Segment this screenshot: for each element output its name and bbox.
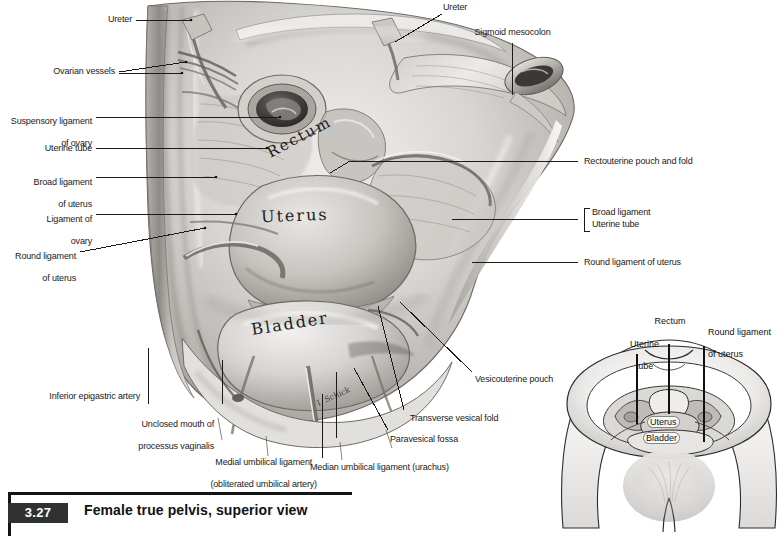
inset-label-round-ligament-of-uterus: Round ligament of uterus [693,316,784,371]
label-line-1: Round ligament [15,251,76,261]
label-line-2: tube [636,361,654,371]
label-line-1: Unclosed mouth of [142,419,215,429]
label-median-umbilical-ligament-urachus: Median umbilical ligament (urachus) [310,462,449,473]
figure-caption-bar: 3.27 Female true pelvis, superior view [0,486,784,536]
main-illustration: Rectum Uterus Bladder I. Schick [86,0,586,470]
label-uterine-tube-left: Uterine tube [0,143,92,154]
figure-page: Rectum Uterus Bladder I. Schick [0,0,784,536]
label-line-2: of uterus [708,349,743,359]
label-transverse-vesical-fold: Transverse vesical fold [410,413,498,424]
label-broad-ligament-right: Broad ligament [592,207,650,218]
label-inferior-epigastric-artery: Inferior epigastric artery [0,391,140,402]
inset-organ-label-uterus: Uterus [647,416,680,428]
label-round-ligament-of-uterus-left: Round ligament of uterus [0,240,76,295]
figure-number-badge: 3.27 [8,503,68,523]
label-vesicouterine-pouch: Vesicouterine pouch [475,374,553,385]
label-line-1: Suspensory ligament [11,116,92,126]
label-sigmoid-mesocolon: Sigmoid mesocolon [440,27,585,38]
label-uterine-tube-right: Uterine tube [592,219,639,230]
leader-inferior-epigastric [148,348,149,388]
label-line-1: Broad ligament [34,177,92,187]
figure-caption-text: Female true pelvis, superior view [84,502,308,518]
label-line-2: of uterus [42,273,76,283]
label-line-1: Ligament of [47,214,92,224]
inset-label-rectum: Rectum [641,316,699,327]
caption-rule-horizontal [8,492,352,495]
label-round-ligament-of-uterus-right: Round ligament of uterus [584,257,681,268]
label-ureter-left: Ureter [0,14,132,25]
leader-processus-vaginalis [222,360,223,404]
label-ureter-right: Ureter [443,2,467,13]
label-ovarian-vessels: Ovarian vessels [0,66,115,77]
inset-organ-label-bladder: Bladder [643,432,680,444]
organ-label-uterus: Uterus [261,205,329,226]
inset-label-uterine-tube: Uterine tube [601,328,673,383]
label-line-1: Medial umbilical ligament [215,457,312,467]
label-line-1: Round ligament [708,327,771,337]
label-paravesical-fossa: Paravesical fossa [390,434,458,445]
processus-vaginalis-structure [232,394,244,402]
label-line-1: Uterine [630,339,659,349]
right-label-bracket [584,208,590,232]
label-rectouterine-pouch-and-fold: Rectouterine pouch and fold [584,156,693,167]
